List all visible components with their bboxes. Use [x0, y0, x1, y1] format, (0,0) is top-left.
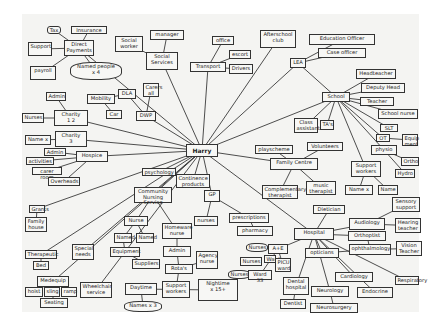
node-direct-payments: Direct Payments: [64, 40, 94, 56]
node-homeware-nurse: Homeware nurse: [162, 223, 192, 239]
node-cardiology: Cardiology: [335, 272, 373, 282]
edge-hospital-endocrine: [314, 234, 375, 293]
node-hospital: Hospital: [294, 228, 334, 240]
node-family-housing: Family house: [25, 217, 47, 232]
edge-harry-transport: [202, 67, 208, 151]
edge-harry-charity_3: [71, 139, 202, 151]
node-volunteers: Volunteers: [307, 142, 343, 151]
node-neurosurgery: Neurosurgery: [310, 303, 358, 313]
node-respiratory: Respiratory: [395, 276, 419, 285]
node-medequip: Medequip: [37, 276, 69, 287]
node-carers-room: carer room: [32, 167, 62, 175]
node-ramp: ramp: [61, 287, 77, 297]
node-dwp: DWP: [136, 111, 156, 121]
node-support: Support: [28, 42, 52, 56]
node-orthoptist: Orthoptist: [348, 231, 386, 241]
node-manager: manager: [150, 30, 184, 40]
node-admin-hospice: Admin: [44, 148, 66, 156]
node-grants: Grants: [29, 205, 45, 213]
node-office: office: [212, 36, 234, 45]
node-audiology: Audiology: [349, 218, 385, 230]
node-rotas: Rota's: [165, 264, 193, 274]
node-nighttime: Nightime x 15+: [198, 279, 238, 301]
node-psychology: psychology: [142, 168, 176, 176]
node-neurology: Neurology: [311, 286, 349, 297]
node-car: Car: [106, 110, 122, 119]
node-dietician: Dietician: [313, 205, 345, 214]
node-transport: Transport: [190, 62, 226, 72]
node-name-x-left: Name x: [25, 135, 51, 145]
node-school: School: [322, 92, 350, 102]
node-prescriptions: prescriptions: [229, 213, 269, 223]
node-case-officer: Case officer: [318, 48, 366, 58]
node-vision-teacher: Vision Teacher: [396, 241, 422, 256]
node-dentist: Dentist: [280, 299, 306, 309]
node-name-right: Name: [378, 185, 398, 195]
node-escort: escort: [229, 50, 251, 59]
node-overheads: Overheads: [48, 177, 80, 186]
node-complementary-therapist: Complementary therapist: [262, 185, 298, 199]
node-ortho: Ortho: [401, 157, 419, 166]
node-nurses-gp: nurses: [194, 216, 218, 226]
node-school-nurse: School nurse: [378, 109, 418, 119]
node-agency-nurse: Agency nurse: [196, 251, 218, 269]
node-therapeutic-bed: Therapeutic: [25, 250, 57, 259]
node-daytime: Daytime: [125, 283, 157, 295]
node-nurse: Nurse: [124, 216, 148, 226]
node-social-worker: Social worker: [115, 36, 143, 52]
node-hearing-teacher: Hearing teacher: [395, 218, 421, 233]
node-insurance: Insurance: [71, 26, 107, 34]
node-dental-hospital: Dental hospital: [283, 277, 309, 295]
node-ophthalmology: ophthalmology: [349, 244, 391, 255]
node-continence-products: Continence products: [176, 174, 210, 188]
node-equipment-ot: Equip ment: [402, 134, 418, 146]
node-name-x: Name x: [345, 185, 373, 195]
node-admin-left: Admin: [46, 92, 66, 101]
node-harry: Harry: [186, 144, 218, 157]
node-payroll: payroll: [30, 66, 56, 80]
node-wheelchair-service: Wheelchair service: [80, 282, 112, 298]
node-sling: sling: [44, 287, 60, 297]
node-named-1: Named: [114, 233, 132, 243]
node-hoist: hoist: [25, 287, 43, 297]
node-tas: TA's: [320, 120, 334, 130]
node-after-school-club: Afterschool club: [260, 30, 296, 48]
node-carers-allowance: Carers all: [143, 83, 159, 97]
node-drivers: Drivers: [229, 64, 253, 74]
node-nurses-ward: Nurses: [240, 257, 262, 266]
node-named-2: Named: [136, 233, 154, 243]
node-mobility: Mobility: [87, 94, 115, 104]
node-gp: GP: [204, 190, 220, 202]
node-playscheme: playscheme: [255, 145, 293, 154]
node-admin-mid: Admin: [163, 246, 191, 257]
node-family-centre: Family Centre: [270, 158, 318, 170]
node-hospice: Hospice: [76, 151, 108, 162]
node-support-workers-right: Support workers: [351, 161, 381, 177]
node-class-assistants: Class assistants: [294, 118, 318, 133]
node-ae: A+E: [268, 244, 288, 254]
node-headteacher: Headteacher: [356, 69, 396, 79]
node-community-nursing: Community Nursing Service: [134, 187, 172, 203]
node-dla: DLA: [118, 89, 136, 99]
node-slt: SLT: [380, 124, 398, 132]
node-activities: activities: [26, 157, 54, 165]
node-pharmacy: pharmacy: [237, 226, 273, 236]
node-music-therapist: music therapist: [306, 181, 336, 195]
node-names-x3: Names x 3: [124, 301, 162, 312]
node-seating: Seating: [40, 298, 68, 308]
node-suppliers: Suppliers: [132, 259, 160, 269]
node-nurses-left: Nurses: [22, 113, 44, 123]
node-nurses-oval: Nurses: [228, 270, 250, 279]
node-named-people: Named people x 4: [70, 62, 122, 80]
node-bed: Bed: [33, 261, 49, 270]
edge-harry-lea: [202, 63, 298, 151]
node-nurses-ae: Nurses: [246, 243, 268, 252]
node-support-workers-mid: Support workers: [162, 281, 190, 298]
node-opticians: opticians: [305, 248, 339, 258]
node-ot: OT: [376, 134, 390, 142]
node-hydro: Hydro: [395, 169, 415, 178]
node-charity-3: Charity 3: [55, 131, 87, 147]
node-sensory-support: Sensory support: [392, 197, 420, 212]
node-physio: physio: [371, 145, 397, 155]
node-social-services: Social Services: [146, 52, 178, 70]
